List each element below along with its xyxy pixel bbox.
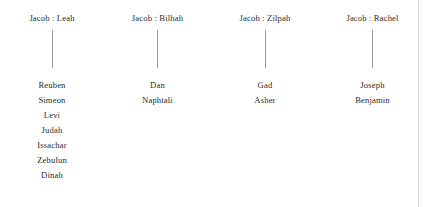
child-name: Reuben xyxy=(38,78,65,93)
connector-line-bilhah xyxy=(157,30,158,68)
child-name: Gad xyxy=(258,78,273,93)
connector-line-rachel xyxy=(372,30,373,68)
children-list-rachel: Joseph Benjamin xyxy=(355,78,390,108)
child-name: Dinah xyxy=(41,168,63,183)
parents-label-zilpah: Jacob : Zilpah xyxy=(240,13,291,24)
child-name: Naphtali xyxy=(142,93,173,108)
parents-label-leah: Jacob : Leah xyxy=(29,13,74,24)
right-page-border xyxy=(418,0,419,207)
parents-label-rachel: Jacob : Rachel xyxy=(346,13,398,24)
child-name: Simeon xyxy=(38,93,65,108)
family-group-rachel: Jacob : Rachel Joseph Benjamin xyxy=(319,0,426,108)
child-name: Judah xyxy=(42,123,63,138)
children-list-leah: Reuben Simeon Levi Judah Issachar Zebulu… xyxy=(37,78,67,183)
connector-line-leah xyxy=(52,30,53,68)
children-list-zilpah: Gad Asher xyxy=(254,78,275,108)
child-name: Asher xyxy=(254,93,275,108)
child-name: Joseph xyxy=(360,78,384,93)
family-group-bilhah: Jacob : Bilhah Dan Naphtali xyxy=(104,0,211,108)
child-name: Levi xyxy=(44,108,60,123)
family-group-leah: Jacob : Leah Reuben Simeon Levi Judah Is… xyxy=(0,0,104,183)
family-columns: Jacob : Leah Reuben Simeon Levi Judah Is… xyxy=(0,0,426,207)
child-name: Issachar xyxy=(37,138,66,153)
child-name: Zebulun xyxy=(37,153,67,168)
child-name: Benjamin xyxy=(355,93,390,108)
connector-line-zilpah xyxy=(265,30,266,68)
child-name: Dan xyxy=(150,78,165,93)
family-group-zilpah: Jacob : Zilpah Gad Asher xyxy=(211,0,319,108)
children-list-bilhah: Dan Naphtali xyxy=(142,78,173,108)
family-tree-diagram: Jacob : Leah Reuben Simeon Levi Judah Is… xyxy=(0,0,426,207)
parents-label-bilhah: Jacob : Bilhah xyxy=(132,13,183,24)
